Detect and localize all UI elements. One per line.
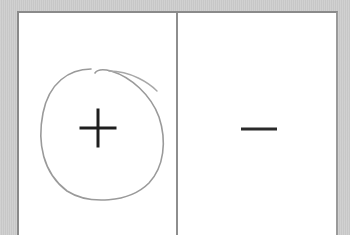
whiteboard [17, 11, 338, 235]
panel-left[interactable] [19, 13, 176, 235]
minus-drawing [178, 13, 338, 235]
circled-plus-drawing [19, 13, 176, 235]
hand-drawn-circle-icon [41, 69, 163, 200]
panel-right[interactable] [178, 13, 336, 235]
plus-icon [81, 110, 115, 146]
